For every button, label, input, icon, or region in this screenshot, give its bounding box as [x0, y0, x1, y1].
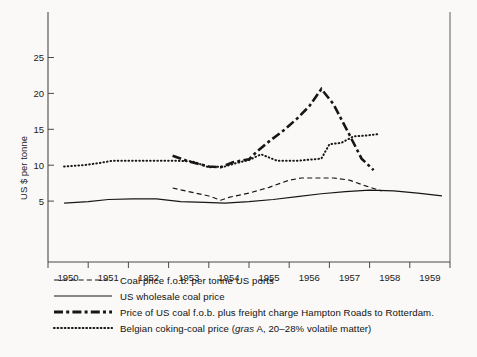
chart-figure: 25 20 15 10 5 US $ per tonne 1950 1951 1…: [0, 0, 477, 357]
y-tick-label: 25: [33, 52, 44, 63]
legend-swatch-solid-icon: [52, 289, 114, 303]
data-series-layer: [64, 89, 442, 203]
legend-label: Coal price f.o.b. per tonne US ports: [114, 275, 274, 286]
legend-swatch-dotted-icon: [52, 321, 114, 335]
series-line-hampton-roads-rotterdam: [173, 89, 374, 170]
y-tick-label: 10: [33, 160, 44, 171]
y-axis-title: US $ per tonne: [18, 136, 29, 200]
legend-swatch-dashed-icon: [52, 273, 114, 287]
series-line-coal-price-fob: [173, 178, 382, 200]
legend-label-pre: Belgian coking-coal price (: [120, 323, 235, 334]
legend-item-belgian-coking-coal-price[interactable]: Belgian coking-coal price (gras A, 20–28…: [52, 320, 452, 336]
legend-label-emphasis: gras: [235, 323, 254, 334]
legend-label: Belgian coking-coal price (gras A, 20–28…: [114, 323, 371, 334]
legend-swatch-dashdot-icon: [52, 305, 114, 319]
x-tick-marks: [48, 262, 450, 268]
legend-label: US wholesale coal price: [114, 291, 225, 302]
y-tick-marks: [48, 58, 54, 202]
legend-item-hampton-roads-rotterdam[interactable]: Price of US coal f.o.b. plus freight cha…: [52, 304, 452, 320]
legend-label: Price of US coal f.o.b. plus freight cha…: [114, 307, 434, 318]
series-line-belgian-coking-coal-price: [64, 134, 378, 167]
legend-item-us-wholesale-coal-price[interactable]: US wholesale coal price: [52, 288, 452, 304]
legend-label-post: A, 20–28% volatile matter): [254, 323, 371, 334]
legend-item-coal-price-fob[interactable]: Coal price f.o.b. per tonne US ports: [52, 272, 452, 288]
y-tick-label: 20: [33, 88, 44, 99]
y-tick-label: 15: [33, 124, 44, 135]
chart-legend: Coal price f.o.b. per tonne US ports US …: [52, 272, 452, 336]
y-tick-label: 5: [39, 196, 44, 207]
y-tick-labels: 25 20 15 10 5: [33, 52, 44, 207]
